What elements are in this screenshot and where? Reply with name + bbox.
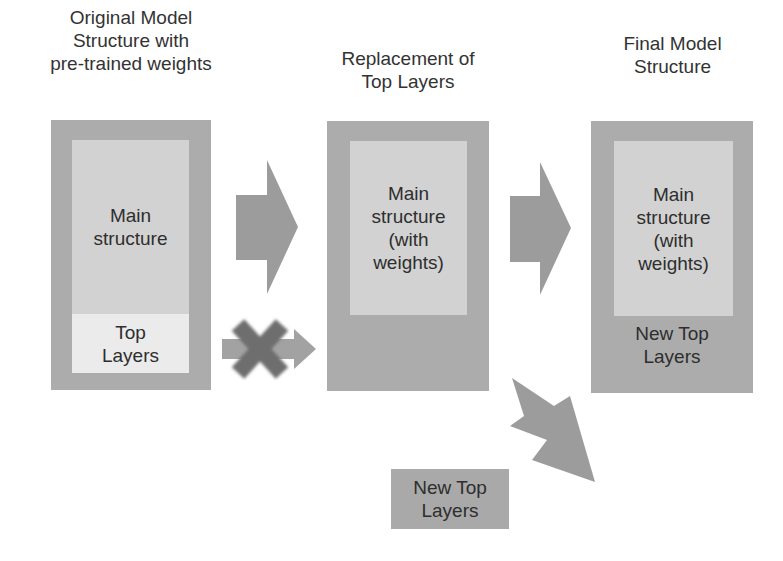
stage-1-title: Original Model Structure with pre-traine… xyxy=(30,6,232,75)
main-label-line: structure xyxy=(372,205,446,228)
main-label-line: Main xyxy=(110,204,151,227)
main-label-line: structure xyxy=(637,206,711,229)
top-layers-block: Top Layers xyxy=(72,314,189,373)
main-label-line: (with xyxy=(653,229,693,252)
title-line: Final Model xyxy=(595,32,750,55)
title-line: Structure xyxy=(595,55,750,78)
new-top-label-line: Layers xyxy=(421,499,478,522)
main-label-line: Main xyxy=(388,182,429,205)
main-structure-block: Main structure xyxy=(72,140,189,314)
new-top-layers-label: New Top Layers xyxy=(591,322,753,368)
top-label-line: Top xyxy=(115,321,146,344)
diagonal-arrow-icon xyxy=(508,378,608,488)
new-top-label-line: New Top xyxy=(413,476,487,499)
top-label-line: New Top xyxy=(591,322,753,345)
main-label-line: structure xyxy=(94,227,168,250)
crossed-arrow-icon xyxy=(222,315,322,385)
right-arrow-icon xyxy=(510,162,580,302)
main-label-line: (with xyxy=(388,228,428,251)
top-label-line: Layers xyxy=(591,345,753,368)
new-top-layers-block: New Top Layers xyxy=(391,469,509,529)
main-structure-with-weights-block: Main structure (with weights) xyxy=(614,141,733,316)
title-line: Structure with xyxy=(30,29,232,52)
right-arrow-icon xyxy=(236,160,306,300)
stage-3-title: Final Model Structure xyxy=(595,32,750,78)
title-line: pre-trained weights xyxy=(30,52,232,75)
title-line: Original Model xyxy=(30,6,232,29)
stage-2-title: Replacement of Top Layers xyxy=(310,47,506,93)
title-line: Top Layers xyxy=(310,70,506,93)
main-label-line: weights) xyxy=(638,252,709,275)
main-label-line: weights) xyxy=(373,251,444,274)
title-line: Replacement of xyxy=(310,47,506,70)
top-label-line: Layers xyxy=(102,344,159,367)
main-label-line: Main xyxy=(653,183,694,206)
main-structure-with-weights-block: Main structure (with weights) xyxy=(350,141,467,315)
